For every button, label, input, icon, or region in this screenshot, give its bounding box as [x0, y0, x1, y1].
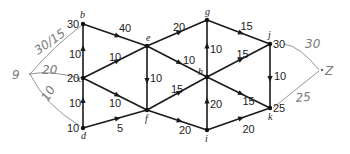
edge-h-g: 10: [204, 20, 222, 77]
edge-j-k: 10: [267, 44, 286, 108]
node-label: b: [80, 9, 85, 20]
edge-capacity-label: 5: [117, 122, 123, 134]
edge-capacity-label: 40: [119, 22, 131, 34]
edge-capacity-label: 10: [183, 54, 195, 66]
edge-c-f: 10: [83, 78, 147, 110]
edge-capacity-label: 15: [237, 48, 249, 60]
node-g: g: [205, 6, 210, 22]
node-label: d: [81, 130, 87, 141]
edge-capacity-label: 20: [173, 21, 185, 33]
node-i: i: [205, 128, 209, 144]
edge-capacity-label: 20: [210, 98, 222, 110]
handwritten-label: 10: [38, 83, 58, 104]
edge-b-e: 40: [83, 22, 147, 46]
node-value: 25: [273, 102, 285, 114]
node-label: e: [146, 32, 151, 43]
edge-capacity-label: 10: [109, 97, 121, 109]
node-j: j30: [266, 29, 285, 50]
flow-network-diagram: 30/15201030259Z 401010101052010101520151…: [0, 0, 350, 154]
node-label: g: [205, 6, 210, 17]
arrow-icon: [204, 98, 209, 104]
edge-capacity-label: 15: [243, 95, 255, 107]
edge-capacity-label: 10: [69, 97, 81, 109]
node-value: 30: [273, 38, 285, 50]
handwritten-label: 20: [42, 63, 58, 77]
arrow-icon: [144, 78, 149, 84]
edge-capacity-label: 20: [243, 123, 255, 135]
arrow-icon: [204, 43, 209, 49]
arrow-icon: [176, 118, 183, 123]
node-z: Z: [321, 64, 334, 78]
handwritten-label: 30: [305, 37, 321, 51]
edge-capacity-label: 10: [109, 51, 121, 63]
edge-capacity-label: 15: [171, 83, 183, 95]
arrow-icon: [267, 76, 272, 82]
edge-capacity-label: 20: [179, 124, 191, 136]
edge-capacity-label: 10: [69, 48, 81, 60]
node-label: i: [205, 133, 208, 144]
node-label: h: [198, 66, 203, 77]
edge-c-b: 10: [69, 24, 86, 78]
edge-i-h: 20: [204, 77, 222, 130]
node-a: 9: [12, 68, 31, 82]
edge-e-g: 20: [147, 20, 207, 46]
arrow-icon: [114, 116, 120, 121]
handwritten-label: 25: [295, 90, 311, 105]
edge-e-f: 10: [144, 46, 162, 110]
node-f: f: [145, 108, 149, 124]
node-value: 20: [67, 72, 79, 84]
node-value: 30: [67, 18, 79, 30]
edge-c-e: 10: [83, 46, 147, 78]
edge-capacity-label: 10: [150, 72, 162, 84]
arrow-icon: [238, 117, 245, 122]
node-value: 10: [67, 122, 79, 134]
edge-i-k: 20: [207, 108, 270, 135]
node-e: e: [145, 32, 151, 48]
edge-d-f: 5: [83, 110, 147, 134]
handwritten-edge-j-z: 30: [284, 37, 321, 70]
edge-g-j: 15: [207, 20, 270, 44]
node-label: f: [145, 113, 149, 124]
edges: 40101010105201010152015101515202010: [69, 20, 286, 136]
node-d: d10: [67, 122, 87, 141]
edge-capacity-label: 15: [241, 20, 253, 32]
edge-f-i: 20: [147, 110, 207, 136]
edge-capacity-label: 10: [210, 43, 222, 55]
sink-node-label: Z: [324, 64, 334, 78]
node-label: j: [266, 29, 271, 40]
source-node-label: 9: [12, 68, 20, 82]
edge-capacity-label: 10: [274, 70, 286, 82]
